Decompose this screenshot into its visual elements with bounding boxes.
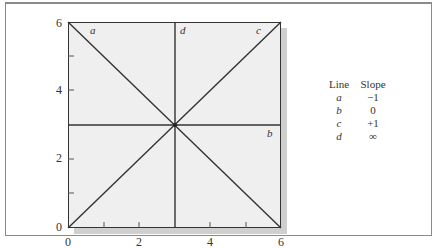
header-line: Line <box>322 78 356 91</box>
row-slope: +1 <box>356 117 390 130</box>
table-row: b 0 <box>322 104 390 117</box>
label-b: b <box>267 127 273 139</box>
row-slope: 0 <box>356 104 390 117</box>
row-line: d <box>322 130 356 143</box>
label-c: c <box>256 24 261 36</box>
table-header: Line Slope <box>322 78 390 91</box>
row-line: a <box>322 91 356 104</box>
row-slope: −1 <box>356 91 390 104</box>
row-line: b <box>322 104 356 117</box>
y-tick-0: 0 <box>56 221 62 233</box>
table-row: d ∞ <box>322 130 390 143</box>
y-tick-4: 4 <box>56 84 62 96</box>
y-tick-2: 2 <box>56 152 62 164</box>
x-tick-2: 2 <box>136 236 142 248</box>
label-a: a <box>90 24 96 36</box>
slope-table: Line Slope a −1 b 0 c +1 d ∞ <box>322 78 390 143</box>
intersection-point <box>173 123 177 127</box>
row-slope: ∞ <box>356 130 390 143</box>
x-tick-4: 4 <box>207 236 213 248</box>
label-d: d <box>180 24 186 36</box>
x-tick-6: 6 <box>278 236 284 248</box>
row-line: c <box>322 117 356 130</box>
header-slope: Slope <box>356 78 390 91</box>
y-tick-6: 6 <box>56 17 62 29</box>
table-row: c +1 <box>322 117 390 130</box>
x-tick-0: 0 <box>65 236 71 248</box>
table-row: a −1 <box>322 91 390 104</box>
